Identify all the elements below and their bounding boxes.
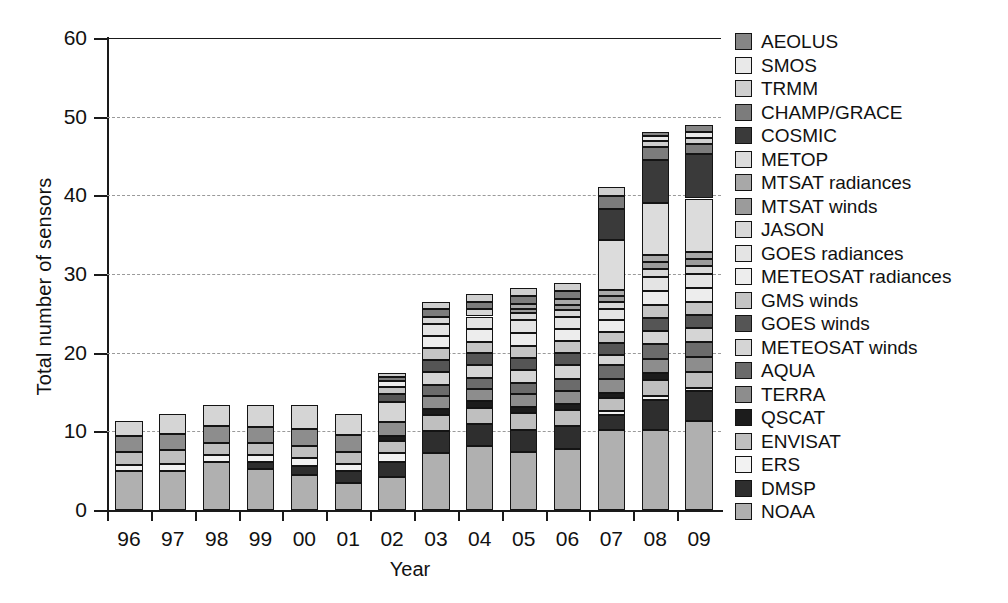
legend-item-goes-radiances[interactable]: GOES radiances [735,242,1005,266]
bar-segment[interactable] [598,187,625,196]
bar-segment[interactable] [510,413,537,430]
bar-segment[interactable] [247,443,274,455]
legend-item-cosmic[interactable]: COSMIC [735,124,1005,148]
bar-segment[interactable] [466,365,493,378]
bar-segment[interactable] [378,422,405,436]
bar-00[interactable] [291,38,318,510]
bar-segment[interactable] [378,477,405,510]
bar-segment[interactable] [554,410,581,426]
bar-segment[interactable] [598,240,625,290]
legend-item-champ-grace[interactable]: CHAMP/GRACE [735,101,1005,125]
bar-segment[interactable] [378,387,405,394]
bar-98[interactable] [203,38,230,510]
bar-segment[interactable] [598,415,625,430]
bar-segment[interactable] [466,389,493,402]
bar-segment[interactable] [510,358,537,370]
bar-segment[interactable] [642,269,669,277]
bar-segment[interactable] [554,305,581,311]
bar-segment[interactable] [466,424,493,445]
bar-segment[interactable] [378,377,405,381]
legend-item-trmm[interactable]: TRMM [735,77,1005,101]
bar-segment[interactable] [422,396,449,409]
bar-segment[interactable] [422,324,449,336]
bar-06[interactable] [554,38,581,510]
bar-segment[interactable] [422,415,449,432]
bar-segment[interactable] [685,132,712,138]
bar-segment[interactable] [598,398,625,411]
bar-segment[interactable] [378,436,405,441]
legend-item-gms-winds[interactable]: GMS winds [735,289,1005,313]
bar-07[interactable] [598,38,625,510]
bar-segment[interactable] [115,465,142,471]
bar-segment[interactable] [598,290,625,296]
legend-item-meteosat-winds[interactable]: METEOSAT winds [735,336,1005,360]
bar-segment[interactable] [378,373,405,377]
bar-segment[interactable] [685,357,712,371]
bar-segment[interactable] [291,446,318,458]
bar-segment[interactable] [510,296,537,304]
bar-segment[interactable] [685,266,712,274]
bar-segment[interactable] [510,313,537,320]
bar-segment[interactable] [159,414,186,434]
bar-segment[interactable] [598,320,625,332]
bar-segment[interactable] [466,353,493,365]
bar-segment[interactable] [598,332,625,343]
bar-segment[interactable] [642,373,669,380]
bar-segment[interactable] [466,446,493,511]
bar-segment[interactable] [642,136,669,141]
bar-segment[interactable] [598,209,625,240]
bar-segment[interactable] [554,391,581,404]
bar-segment[interactable] [642,277,669,291]
bar-segment[interactable] [159,464,186,470]
bar-segment[interactable] [335,464,362,472]
bar-08[interactable] [642,38,669,510]
bar-segment[interactable] [422,385,449,396]
bar-segment[interactable] [510,333,537,346]
bar-97[interactable] [159,38,186,510]
bar-segment[interactable] [510,304,537,309]
bar-segment[interactable] [642,160,669,203]
bar-segment[interactable] [510,407,537,413]
legend-item-terra[interactable]: TERRA [735,383,1005,407]
bar-segment[interactable] [598,365,625,379]
bar-05[interactable] [510,38,537,510]
bar-segment[interactable] [159,434,186,451]
bar-segment[interactable] [378,402,405,422]
bar-segment[interactable] [466,408,493,425]
bar-segment[interactable] [685,391,712,421]
bar-segment[interactable] [598,296,625,302]
bar-segment[interactable] [685,199,712,252]
bar-segment[interactable] [642,255,669,262]
bar-segment[interactable] [598,309,625,321]
bar-segment[interactable] [510,370,537,383]
bar-02[interactable] [378,38,405,510]
bar-segment[interactable] [247,455,274,462]
bar-segment[interactable] [335,452,362,464]
bar-segment[interactable] [642,344,669,359]
bar-segment[interactable] [554,404,581,410]
bar-segment[interactable] [554,426,581,449]
legend-item-goes-winds[interactable]: GOES winds [735,312,1005,336]
bar-segment[interactable] [685,125,712,132]
bar-segment[interactable] [422,453,449,510]
bar-segment[interactable] [642,400,669,430]
bar-segment[interactable] [335,471,362,483]
bar-segment[interactable] [554,299,581,305]
bar-segment[interactable] [598,411,625,415]
legend-item-noaa[interactable]: NOAA [735,500,1005,524]
bar-segment[interactable] [685,315,712,328]
bar-segment[interactable] [422,372,449,385]
legend-item-meteosat-radiances[interactable]: METEOSAT radiances [735,265,1005,289]
bar-segment[interactable] [642,141,669,147]
legend-item-aeolus[interactable]: AEOLUS [735,30,1005,54]
legend-item-jason[interactable]: JASON [735,218,1005,242]
bar-segment[interactable] [642,318,669,331]
bar-segment[interactable] [554,449,581,510]
bar-segment[interactable] [422,309,449,317]
legend-item-dmsp[interactable]: DMSP [735,477,1005,501]
legend-item-metop[interactable]: METOP [735,148,1005,172]
bar-segment[interactable] [685,274,712,288]
bar-segment[interactable] [598,302,625,308]
bar-segment[interactable] [685,138,712,144]
bar-segment[interactable] [510,309,537,314]
